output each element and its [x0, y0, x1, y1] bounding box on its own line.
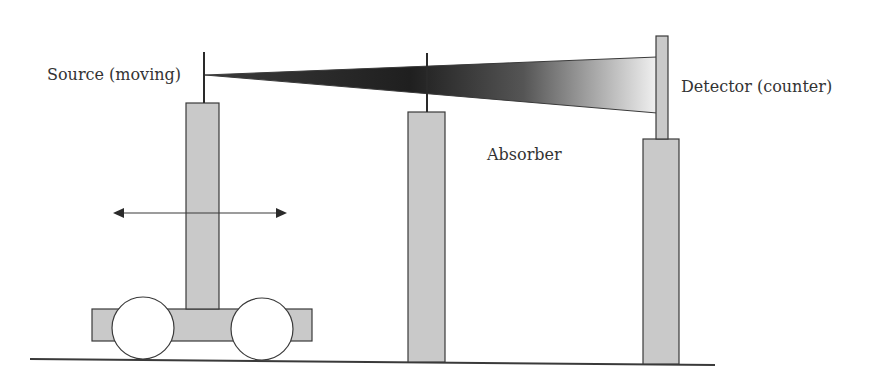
source-cart: [92, 52, 312, 360]
cart-wheel-right: [231, 298, 293, 360]
source-label: Source (moving): [47, 67, 181, 83]
cart-wheel-left: [112, 297, 174, 359]
detector-plate: [656, 36, 668, 139]
radiation-beam: [205, 57, 657, 113]
ground-line: [30, 359, 715, 365]
arrowhead-right-icon: [276, 208, 287, 218]
radiation-attenuation-diagram: Source (moving) Detector (counter) Absor…: [0, 0, 871, 386]
detector-pillar: [643, 139, 679, 364]
absorber-label: Absorber: [487, 147, 562, 163]
arrowhead-left-icon: [113, 208, 124, 218]
absorber-pillar: [408, 112, 445, 362]
source-pillar: [186, 103, 219, 309]
diagram-canvas: [0, 0, 871, 386]
detector-label: Detector (counter): [681, 79, 832, 95]
absorber-stand: [408, 53, 445, 362]
